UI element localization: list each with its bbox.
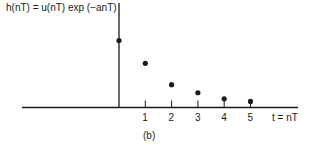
- data-point: [248, 99, 253, 104]
- chart-title: h(nT) = u(nT) exp (−anT): [6, 2, 117, 13]
- figure-caption: (b): [143, 130, 155, 141]
- data-point: [143, 61, 148, 66]
- data-points: [116, 38, 253, 104]
- x-tick-label: 2: [169, 112, 175, 123]
- data-point: [169, 82, 174, 87]
- x-ticks: [145, 101, 250, 108]
- x-tick-label: 1: [142, 112, 148, 123]
- x-tick-label: 5: [248, 112, 254, 123]
- x-tick-label: 4: [221, 112, 227, 123]
- data-point: [222, 96, 227, 101]
- x-tick-label: 3: [195, 112, 201, 123]
- x-axis-label: t = nT: [272, 112, 298, 123]
- data-point: [195, 90, 200, 95]
- data-point: [116, 38, 121, 43]
- stem-plot: [0, 0, 309, 151]
